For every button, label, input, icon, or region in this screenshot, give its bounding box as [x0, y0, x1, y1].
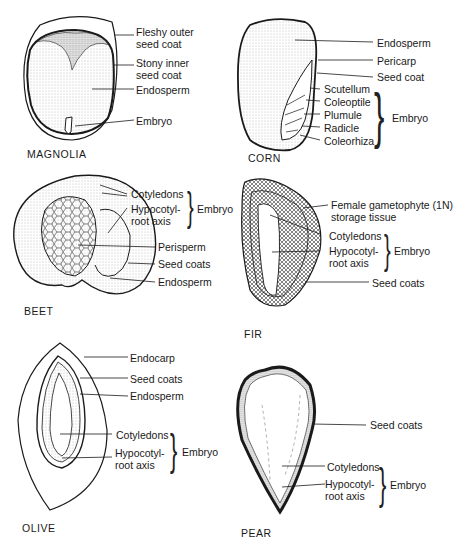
label-seed-coats: Seed coats: [130, 373, 183, 385]
label-endosperm: Endosperm: [136, 84, 190, 96]
label-pericarp: Pericarp: [377, 55, 416, 67]
label-embryo-group: Embryo: [392, 112, 428, 124]
panel-title-pear: PEAR: [241, 527, 272, 539]
magnolia-seed-drawing: [24, 17, 134, 140]
label-seed-coats: Seed coats: [158, 258, 211, 270]
embryo-brace: }: [379, 462, 386, 506]
label-seed-coats: Seed coats: [370, 419, 423, 431]
label-perisperm: Perisperm: [158, 241, 206, 253]
embryo-brace: }: [374, 84, 384, 146]
label-plumule: Plumule: [324, 109, 362, 121]
label-hypocotyl: Hypocotyl-: [329, 245, 379, 257]
label-fleshy-outer: Fleshy outer: [136, 26, 194, 38]
label-hypocotyl: Hypocotyl-: [115, 447, 165, 459]
label-embryo-group: Embryo: [390, 479, 426, 491]
label-scutellum: Scutellum: [324, 83, 370, 95]
label-hypocotyl: Hypocotyl-: [131, 203, 181, 215]
label-endosperm: Endosperm: [158, 276, 212, 288]
label-seed-coats: Seed coats: [372, 277, 425, 289]
label-embryo-group: Embryo: [182, 446, 218, 458]
label-cotyledons: Cotyledons: [329, 230, 382, 242]
label-root-axis: root axis: [115, 459, 155, 471]
label-hypocotyl: Hypocotyl-: [325, 478, 375, 490]
label-root-axis: root axis: [131, 215, 171, 227]
panel-title-magnolia: MAGNOLIA: [27, 148, 86, 160]
label-endosperm: Endosperm: [377, 37, 431, 49]
label-radicle: Radicle: [324, 122, 359, 134]
label-cotyledons: Cotyledons: [116, 429, 169, 441]
label-embryo-group: Embryo: [394, 245, 430, 257]
label-coleoptile: Coleoptile: [324, 96, 371, 108]
label-embryo-group: Embryo: [197, 203, 233, 215]
panel-title-corn: CORN: [248, 152, 281, 164]
panel-title-beet: BEET: [24, 305, 53, 317]
label-endosperm: Endosperm: [130, 390, 184, 402]
label-female-gametophyte: Female gametophyte (1N): [331, 199, 453, 211]
panel-title-fir: FIR: [244, 328, 262, 340]
panel-title-olive: OLIVE: [22, 522, 55, 534]
label-stony-inner-cont: seed coat: [136, 69, 182, 81]
label-fleshy-outer-cont: seed coat: [136, 38, 182, 50]
label-endocarp: Endocarp: [130, 352, 175, 364]
label-root-axis: root axis: [325, 490, 365, 502]
embryo-brace: }: [170, 428, 177, 472]
label-root-axis: root axis: [329, 257, 369, 269]
label-embryo: Embryo: [136, 115, 172, 127]
olive-seed-drawing: [18, 343, 128, 510]
label-stony-inner: Stony inner: [136, 57, 189, 69]
label-cotyledons: Cotyledons: [131, 188, 184, 200]
label-coleorhiza: Coleorhiza: [324, 135, 374, 147]
label-cotyledons: Cotyledons: [327, 461, 380, 473]
label-storage-tissue: storage tissue: [331, 211, 396, 223]
embryo-brace: }: [187, 187, 194, 227]
embryo-brace: }: [384, 230, 391, 270]
